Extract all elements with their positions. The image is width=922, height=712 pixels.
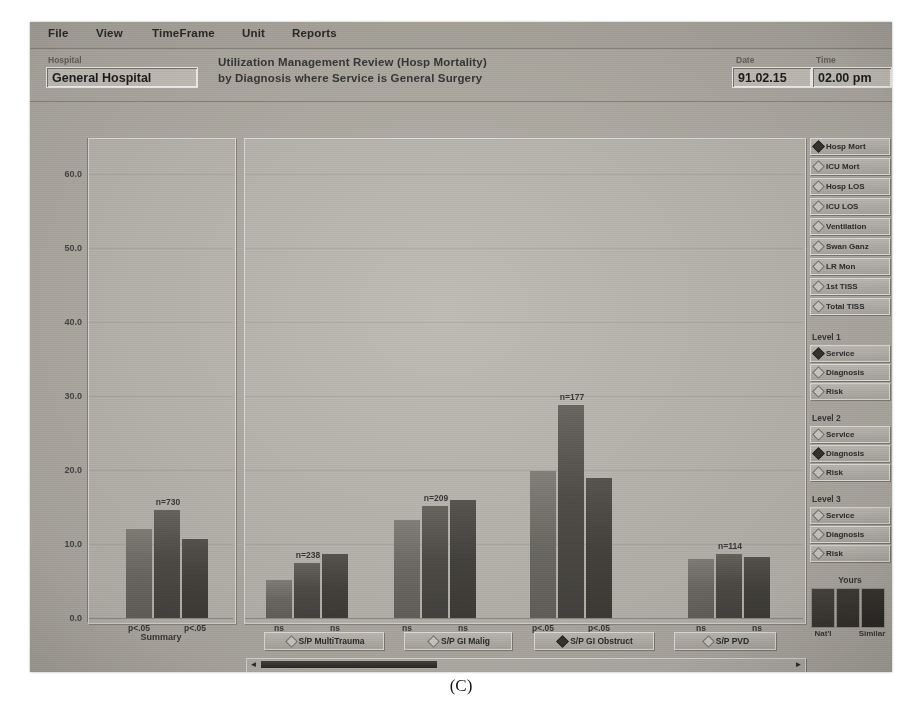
menu-item-reports[interactable]: Reports: [292, 27, 337, 39]
measure-button-total-tiss[interactable]: Total TISS: [810, 298, 890, 315]
diamond-indicator-icon: [812, 300, 825, 313]
menu-item-unit[interactable]: Unit: [242, 27, 265, 39]
sample-size-label: n=238: [278, 550, 338, 560]
legend-caption-natl: Nat'l: [808, 629, 838, 638]
bar[interactable]: [294, 563, 320, 618]
bar[interactable]: [744, 557, 770, 618]
measure-button-ventilation[interactable]: Ventilation: [810, 218, 890, 235]
bar[interactable]: [394, 520, 420, 618]
gridline: [245, 248, 803, 249]
measure-button-icu-mort[interactable]: ICU Mort: [810, 158, 890, 175]
diamond-indicator-icon: [812, 447, 825, 460]
diamond-indicator-icon: [812, 466, 825, 479]
diamond-indicator-icon: [812, 547, 825, 560]
bar[interactable]: [422, 506, 448, 618]
report-title-line2: by Diagnosis where Service is General Su…: [218, 72, 482, 84]
bar[interactable]: [688, 559, 714, 618]
y-axis-tick: 0.0: [44, 613, 82, 623]
measure-button-swan-ganz[interactable]: Swan Ganz: [810, 238, 890, 255]
level3-option-service[interactable]: Service: [810, 507, 890, 524]
date-field[interactable]: 91.02.15: [732, 67, 812, 88]
level3-option-diagnosis[interactable]: Diagnosis: [810, 526, 890, 543]
gridline: [89, 470, 233, 471]
time-field[interactable]: 02.00 pm: [812, 67, 892, 88]
bar[interactable]: [126, 529, 152, 618]
button-label: S/P GI Obstruct: [570, 636, 633, 646]
diamond-indicator-icon: [812, 528, 825, 541]
time-label: Time: [816, 55, 836, 65]
level2-option-service[interactable]: Service: [810, 426, 890, 443]
diagnosis-button-s-p-gi-malig[interactable]: S/P GI Malig: [404, 632, 512, 650]
button-label: ICU Mort: [826, 162, 859, 171]
gridline: [89, 174, 233, 175]
diamond-indicator-icon: [812, 180, 825, 193]
sample-size-label: n=209: [406, 493, 466, 503]
date-label: Date: [736, 55, 754, 65]
level1-option-diagnosis[interactable]: Diagnosis: [810, 364, 890, 381]
diamond-indicator-icon: [812, 260, 825, 273]
bar[interactable]: [154, 510, 180, 618]
button-label: Diagnosis: [826, 368, 864, 377]
bar[interactable]: [558, 405, 584, 618]
bar[interactable]: [716, 554, 742, 618]
button-label: Diagnosis: [826, 449, 864, 458]
level1-option-service[interactable]: Service: [810, 345, 890, 362]
level2-option-risk[interactable]: Risk: [810, 464, 890, 481]
diamond-indicator-icon: [812, 140, 825, 153]
bar[interactable]: [450, 500, 476, 618]
report-title-line1: Utilization Management Review (Hosp Mort…: [218, 56, 487, 68]
measure-button-icu-los[interactable]: ICU LOS: [810, 198, 890, 215]
hospital-field[interactable]: General Hospital: [46, 67, 198, 88]
diamond-indicator-icon: [812, 280, 825, 293]
level3-option-risk[interactable]: Risk: [810, 545, 890, 562]
level-heading: Level 1: [812, 332, 841, 342]
button-label: LR Mon: [826, 262, 855, 271]
diagnosis-button-s-p-gi-obstruct[interactable]: S/P GI Obstruct: [534, 632, 654, 650]
diamond-indicator-icon: [812, 428, 825, 441]
diamond-indicator-icon: [427, 635, 440, 648]
measure-button-1st-tiss[interactable]: 1st TISS: [810, 278, 890, 295]
gridline: [245, 322, 803, 323]
y-axis-tick: 40.0: [44, 317, 82, 327]
gridline: [89, 322, 233, 323]
button-label: Risk: [826, 468, 843, 477]
gridline: [245, 396, 803, 397]
button-label: Diagnosis: [826, 530, 864, 539]
measure-button-lr-mon[interactable]: LR Mon: [810, 258, 890, 275]
y-axis-tick: 10.0: [44, 539, 82, 549]
button-label: Hosp Mort: [826, 142, 866, 151]
horizontal-scrollbar[interactable]: ◄ ►: [246, 658, 806, 672]
bar[interactable]: [586, 478, 612, 618]
menu-item-timeframe[interactable]: TimeFrame: [152, 27, 215, 39]
menu-item-view[interactable]: View: [96, 27, 123, 39]
sample-size-label: n=114: [700, 541, 760, 551]
bar[interactable]: [530, 471, 556, 618]
menu-item-file[interactable]: File: [48, 27, 69, 39]
baseline: [245, 618, 803, 619]
level-heading: Level 2: [812, 413, 841, 423]
header-bar: Hospital General Hospital Utilization Ma…: [30, 49, 892, 102]
button-label: Service: [826, 349, 854, 358]
diamond-indicator-icon: [812, 385, 825, 398]
diamond-indicator-icon: [702, 635, 715, 648]
diagnosis-button-s-p-multitrauma[interactable]: S/P MultiTrauma: [264, 632, 384, 650]
bar[interactable]: [266, 580, 292, 618]
bar[interactable]: [182, 539, 208, 618]
y-axis-tick: 60.0: [44, 169, 82, 179]
level1-option-risk[interactable]: Risk: [810, 383, 890, 400]
diagnosis-button-bar: S/P MultiTraumaS/P GI MaligS/P GI Obstru…: [246, 630, 804, 652]
bar[interactable]: [322, 554, 348, 618]
button-label: S/P MultiTrauma: [299, 636, 365, 646]
level2-option-diagnosis[interactable]: Diagnosis: [810, 445, 890, 462]
diamond-indicator-icon: [812, 160, 825, 173]
measure-button-hosp-mort[interactable]: Hosp Mort: [810, 138, 890, 155]
measure-button-hosp-los[interactable]: Hosp LOS: [810, 178, 890, 195]
sample-size-label: n=177: [542, 392, 602, 402]
scroll-left-arrow-icon[interactable]: ◄: [248, 660, 259, 669]
scrollbar-thumb[interactable]: [261, 661, 437, 668]
diagnosis-button-s-p-pvd[interactable]: S/P PVD: [674, 632, 776, 650]
button-label: S/P GI Malig: [441, 636, 490, 646]
button-label: S/P PVD: [716, 636, 749, 646]
scroll-right-arrow-icon[interactable]: ►: [793, 660, 804, 669]
baseline: [89, 618, 233, 619]
